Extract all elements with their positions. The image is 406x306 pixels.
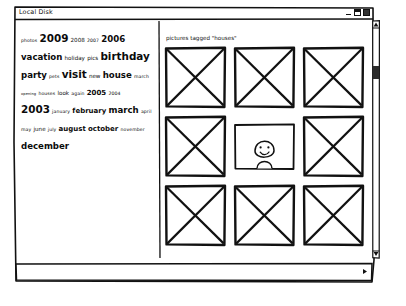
- tag-2006[interactable]: 2006: [101, 34, 125, 44]
- vertical-scrollbar-thumb[interactable]: [373, 66, 379, 79]
- tag-cloud-line: openinghouseslookagain20052004: [21, 81, 161, 98]
- tag-party[interactable]: party: [21, 70, 47, 80]
- minimize-button[interactable]: [345, 9, 352, 16]
- tag-cloud-line: partypetsvisitnewhousemarch: [21, 64, 161, 81]
- results-heading: pictures tagged "houses": [166, 35, 237, 41]
- tag-holiday[interactable]: holiday: [65, 55, 85, 61]
- tag-2007[interactable]: 2007: [87, 38, 99, 43]
- tag-new[interactable]: new: [89, 73, 101, 79]
- tag-november[interactable]: november: [120, 127, 144, 132]
- tag-houses[interactable]: houses: [38, 91, 55, 96]
- tag-cloud-line: photos2009200820072006: [21, 28, 161, 45]
- tag-cloud-line: mayjunejulyaugustoctobernovember: [21, 117, 161, 134]
- tag-cloud-line: vacationholidaypicsbirthday: [21, 46, 161, 63]
- tag-july[interactable]: july: [48, 127, 57, 132]
- thumbnail-placeholder[interactable]: [233, 184, 296, 247]
- tag-october[interactable]: october: [88, 125, 118, 133]
- thumbnail-placeholder[interactable]: [302, 115, 365, 178]
- tag-2003[interactable]: 2003: [21, 103, 50, 115]
- tag-april[interactable]: april: [141, 109, 152, 114]
- tag-again[interactable]: again: [71, 91, 84, 96]
- thumbnail-placeholder[interactable]: [164, 115, 227, 178]
- results-pane: pictures tagged "houses": [163, 20, 373, 259]
- tag-vacation[interactable]: vacation: [21, 52, 62, 62]
- tag-opening[interactable]: opening: [21, 92, 36, 96]
- tag-pets[interactable]: pets: [49, 74, 59, 79]
- thumbnail-placeholder[interactable]: [164, 46, 227, 109]
- tag-house[interactable]: house: [103, 70, 132, 80]
- tag-december[interactable]: december: [21, 141, 69, 151]
- tag-march[interactable]: march: [134, 74, 149, 79]
- horizontal-scrollbar-track: [15, 262, 373, 282]
- tag-january[interactable]: january: [52, 109, 70, 114]
- title-bar: Local Disk: [15, 7, 373, 19]
- tag-cloud-line: 2003januaryfebruarymarchapril: [21, 99, 161, 116]
- tag-august[interactable]: august: [59, 125, 86, 133]
- tag-march[interactable]: march: [109, 105, 139, 115]
- application-window: Local Disk photos2009200820072006vacatio…: [13, 6, 382, 284]
- thumbnail-placeholder[interactable]: [164, 184, 227, 247]
- tag-look[interactable]: look: [57, 90, 69, 96]
- tag-2005[interactable]: 2005: [87, 89, 106, 97]
- tag-june[interactable]: june: [34, 126, 46, 132]
- close-button[interactable]: [363, 9, 370, 16]
- thumbnail-placeholder[interactable]: [302, 46, 365, 109]
- window-controls: [345, 9, 370, 16]
- vertical-scrollbar[interactable]: [372, 20, 380, 259]
- thumbnail-grid: [164, 46, 370, 247]
- tag-cloud-line: december: [21, 135, 161, 152]
- thumbnail-portrait[interactable]: [233, 115, 296, 178]
- tag-pics[interactable]: pics: [87, 55, 98, 61]
- tag-photos[interactable]: photos: [21, 38, 37, 43]
- tag-cloud[interactable]: photos2009200820072006vacationholidaypic…: [21, 28, 161, 152]
- vertical-scrollbar-track: [372, 20, 380, 259]
- tag-birthday[interactable]: birthday: [100, 50, 149, 62]
- horizontal-scrollbar[interactable]: [15, 262, 373, 282]
- tag-february[interactable]: february: [72, 107, 106, 115]
- tag-2004[interactable]: 2004: [108, 91, 120, 96]
- maximize-button[interactable]: [354, 9, 361, 16]
- window-title: Local Disk: [19, 8, 53, 16]
- tag-may[interactable]: may: [21, 127, 31, 132]
- window-content: photos2009200820072006vacationholidaypic…: [15, 20, 373, 259]
- thumbnail-placeholder[interactable]: [302, 184, 365, 247]
- tag-visit[interactable]: visit: [62, 68, 87, 80]
- tag-2009[interactable]: 2009: [39, 32, 68, 44]
- tag-2008[interactable]: 2008: [71, 37, 85, 43]
- thumbnail-placeholder[interactable]: [233, 46, 296, 109]
